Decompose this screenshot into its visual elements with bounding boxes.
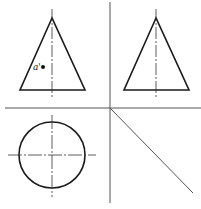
- point-a-marker: [41, 65, 45, 69]
- side-view: [124, 9, 189, 99]
- point-a-label: a': [33, 62, 41, 72]
- front-view: a': [20, 9, 85, 99]
- front-view-triangle: [20, 18, 85, 90]
- side-view-triangle: [124, 18, 189, 90]
- projection-drawing: a': [0, 0, 201, 209]
- miter-45-degree-line: [110, 108, 193, 193]
- top-view: [8, 115, 96, 197]
